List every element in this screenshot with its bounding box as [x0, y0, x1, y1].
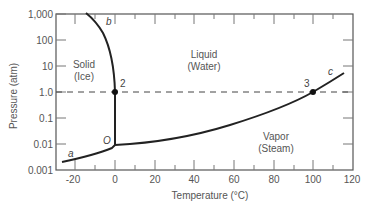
y-tick-label: 1,000 — [28, 9, 53, 20]
x-tick-label: 40 — [188, 174, 200, 185]
x-tick-label: 80 — [268, 174, 280, 185]
point-2-label: 2 — [120, 78, 126, 89]
x-tick-label: -20 — [66, 174, 81, 185]
curve-letter-b: b — [106, 16, 112, 27]
y-axis-title: Pressure (atm) — [8, 63, 19, 129]
y-tick-label: 10 — [42, 61, 54, 72]
region-vapor-sub: (Steam) — [258, 143, 294, 154]
triple-point-label: O — [103, 135, 111, 146]
region-liquid-label: Liquid — [191, 49, 218, 60]
x-tick-labels: -20 0 20 40 60 80 100 120 — [66, 174, 361, 185]
vaporization-curve — [115, 73, 344, 145]
y-tick-label: 1.0 — [39, 87, 53, 98]
x-tick-label: 60 — [228, 174, 240, 185]
y-tick-labels: 1,000 100 10 1.0 0.1 0.01 0.001 — [28, 9, 53, 176]
region-solid-label: Solid — [73, 59, 95, 70]
y-tick-label: 100 — [36, 35, 53, 46]
phase-diagram-chart: 1,000 100 10 1.0 0.1 0.01 0.001 -20 0 20… — [0, 0, 368, 209]
curve-letter-a: a — [68, 148, 74, 159]
region-liquid-sub: (Water) — [188, 61, 221, 72]
x-tick-label: 100 — [305, 174, 322, 185]
x-tick-label: 120 — [344, 174, 361, 185]
y-tick-label: 0.1 — [39, 113, 53, 124]
region-solid-sub: (Ice) — [74, 71, 94, 82]
y-tick-label: 0.01 — [34, 139, 54, 150]
x-tick-label: 0 — [112, 174, 118, 185]
x-tick-label: 20 — [149, 174, 161, 185]
x-axis-title: Temperature (°C) — [172, 190, 249, 201]
curve-letter-c: c — [328, 66, 333, 77]
point-2-marker — [112, 89, 118, 95]
point-3-label: 3 — [304, 78, 310, 89]
region-vapor-label: Vapor — [263, 131, 290, 142]
point-3-marker — [310, 89, 316, 95]
y-tick-label: 0.001 — [28, 165, 53, 176]
